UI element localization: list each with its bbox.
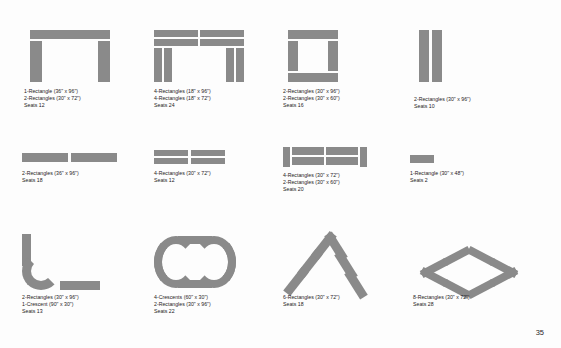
caption-line: 4-Rectangles (18" x 96") [154,88,211,95]
table-segment [154,158,188,164]
table-segment [326,147,358,155]
table-segment [30,30,110,39]
layout-caption-classroom-grid: 4-Rectangles (30" x 72") 2-Rectangles (3… [283,172,340,193]
table-segment [178,236,212,244]
caption-line: Seats 2 [410,177,464,184]
layout-diagram-hollow-square [288,30,348,82]
layout-caption-diamond-shape: 8-Rectangles (30" x 72") Seats 28 [413,294,470,308]
caption-line: 1-Rectangle (30" x 48") [410,170,464,177]
table-segment [328,41,338,71]
table-segment [419,30,429,82]
table-segment [226,48,234,82]
caption-line: 2-Rectangles (30" x 96") [154,301,211,308]
layout-caption-double-u-shape: 4-Rectangles (18" x 96") 4-Rectangles (1… [154,88,211,109]
table-segment [292,157,324,165]
caption-line: Seats 18 [283,301,340,308]
layout-diagram-oval-shape [154,236,254,290]
caption-line: 2-Rectangles (30" x 96") [22,294,79,301]
layout-diagram-classroom-two [22,153,122,163]
layout-caption-parallel-pair: 2-Rectangles (30" x 96") Seats 10 [414,96,471,110]
caption-line: 2-Rectangles (30" x 96") [283,88,340,95]
table-segment [432,30,442,82]
caption-line: 1-Crescent (90" x 30") [22,301,79,308]
caption-line: 4-Rectangles (30" x 72") [154,170,211,177]
table-segment [178,280,212,288]
caption-line: 2-Rectangles (36" x 96") [22,170,79,177]
table-segment [283,147,290,167]
layout-caption-l-shape: 2-Rectangles (30" x 96") 1-Crescent (90"… [22,294,79,315]
table-segment [443,246,471,266]
caption-line: 4-Rectangles (30" x 72") [283,172,340,179]
caption-line: 2-Rectangles (30" x 60") [283,95,340,102]
table-segment [154,30,198,37]
catalog-page: 1-Rectangle (36" x 96") 2-Rectangles (30… [0,0,561,348]
layout-caption-u-shape-single: 1-Rectangle (36" x 96") 2-Rectangles (30… [24,88,81,109]
layout-diagram-parallel-pair [419,30,459,82]
table-segment [288,30,338,39]
caption-line: Seats 12 [154,177,211,184]
layout-diagram-diamond-shape [410,248,530,294]
layout-caption-oval-shape: 4-Crescents (60" x 30") 2-Rectangles (30… [154,294,211,315]
table-segment [154,48,162,82]
table-segment [288,41,298,71]
layout-caption-classroom-four: 4-Rectangles (30" x 72") Seats 12 [154,170,211,184]
table-segment [22,153,68,162]
caption-line: 2-Rectangles (30" x 96") [414,96,471,103]
caption-line: Seats 12 [24,102,81,109]
table-segment [360,147,367,167]
layout-caption-classroom-two: 2-Rectangles (36" x 96") Seats 18 [22,170,79,184]
table-segment [326,157,358,165]
caption-line: 8-Rectangles (30" x 72") [413,294,470,301]
caption-line: Seats 22 [154,308,211,315]
table-segment [236,48,244,82]
crescent-segment [22,252,60,290]
layout-diagram-chevron-shape [283,234,373,292]
table-segment [154,39,198,46]
layout-diagram-classroom-four [154,150,254,168]
layout-diagram-l-shape [22,234,132,290]
caption-line: Seats 28 [413,301,470,308]
table-segment [410,155,434,163]
caption-line: 2-Rectangles (30" x 72") [24,95,81,102]
caption-line: Seats 10 [414,103,471,110]
layout-caption-single-small: 1-Rectangle (30" x 48") Seats 2 [410,170,464,184]
layout-diagram-double-u-shape [154,30,269,82]
table-segment [200,39,244,46]
caption-line: Seats 16 [283,102,340,109]
caption-line: Seats 18 [22,177,79,184]
caption-line: 6-Rectangles (30" x 72") [283,294,340,301]
caption-line: Seats 20 [283,186,340,193]
layout-caption-hollow-square: 2-Rectangles (30" x 96") 2-Rectangles (3… [283,88,340,109]
caption-line: 1-Rectangle (36" x 96") [24,88,81,95]
caption-line: Seats 24 [154,102,211,109]
table-segment [292,147,324,155]
caption-line: 4-Crescents (60" x 30") [154,294,211,301]
layout-diagram-single-small [410,155,450,165]
caption-line: Seats 13 [22,308,79,315]
caption-line: 4-Rectangles (18" x 72") [154,95,211,102]
table-segment [71,153,117,162]
table-segment [200,30,244,37]
table-segment [98,41,110,82]
table-segment [154,150,188,156]
table-segment [467,279,495,299]
table-segment [288,73,338,82]
caption-line: 2-Rectangles (30" x 60") [283,179,340,186]
page-number: 35 [536,328,544,337]
layout-diagram-u-shape-single [22,30,132,82]
table-segment [164,48,172,82]
table-segment [191,158,225,164]
table-segment [60,281,100,290]
table-segment [191,150,225,156]
layout-diagram-classroom-grid [283,147,383,169]
layout-caption-chevron-shape: 6-Rectangles (30" x 72") Seats 18 [283,294,340,308]
table-segment [30,41,42,82]
